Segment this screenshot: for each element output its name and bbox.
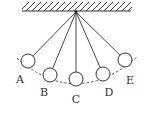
ball-a xyxy=(21,54,35,68)
label-d: D xyxy=(105,86,114,99)
label-c: C xyxy=(72,93,80,106)
pendulum-positions xyxy=(21,12,132,86)
ball-c xyxy=(69,72,83,86)
ball-d xyxy=(96,67,110,81)
ball-b xyxy=(43,68,57,82)
label-e: E xyxy=(126,74,134,87)
string-a xyxy=(33,12,76,56)
label-a: A xyxy=(15,73,25,86)
label-b: B xyxy=(40,86,48,99)
ceiling xyxy=(20,2,137,11)
string-d xyxy=(76,12,100,68)
pendulum-diagram: ABCDE xyxy=(0,0,147,120)
ball-e xyxy=(118,53,132,67)
string-b xyxy=(53,12,76,69)
string-e xyxy=(76,12,120,55)
